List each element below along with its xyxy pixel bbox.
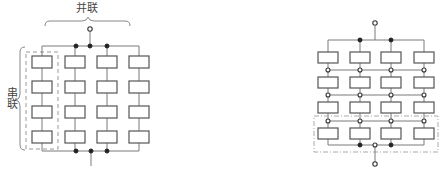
- cell: [414, 102, 434, 113]
- node: [422, 119, 426, 123]
- node: [326, 119, 330, 123]
- cell: [350, 52, 370, 63]
- cell: [350, 77, 370, 88]
- node: [358, 119, 362, 123]
- junction-node: [89, 149, 93, 153]
- junction-node: [105, 44, 109, 48]
- node: [389, 93, 393, 97]
- top-terminal: [88, 27, 92, 31]
- parallel-series-diagram: 并联 串联: [5, 1, 150, 166]
- cell: [129, 81, 149, 93]
- cell: [414, 128, 434, 139]
- series-parallel-diagram: [314, 21, 438, 166]
- node: [358, 93, 362, 97]
- cell: [381, 52, 401, 63]
- cell: [32, 131, 52, 143]
- cell: [65, 131, 85, 143]
- cell: [129, 106, 149, 118]
- node: [389, 68, 393, 72]
- junction-node: [358, 38, 362, 42]
- cell: [97, 81, 117, 93]
- cell: [318, 102, 338, 113]
- parallel-label: 并联: [76, 1, 98, 15]
- cell: [381, 77, 401, 88]
- node: [326, 93, 330, 97]
- cell: [97, 106, 117, 118]
- junction-node: [105, 149, 109, 153]
- node: [389, 119, 393, 123]
- node: [373, 143, 377, 147]
- cell: [65, 81, 85, 93]
- junction-node: [74, 149, 78, 153]
- node: [358, 68, 362, 72]
- cell: [129, 131, 149, 143]
- junction-node: [88, 44, 92, 48]
- series-label: 串联: [5, 87, 19, 110]
- cell: [318, 52, 338, 63]
- junction-node: [389, 38, 393, 42]
- parallel-brace: [45, 17, 130, 26]
- cell: [318, 128, 338, 139]
- cell: [381, 128, 401, 139]
- cell: [129, 56, 149, 68]
- junction-node: [389, 143, 393, 147]
- cell: [350, 128, 370, 139]
- cell: [318, 77, 338, 88]
- node: [422, 93, 426, 97]
- cell: [32, 56, 52, 68]
- cell: [32, 106, 52, 118]
- cell: [65, 106, 85, 118]
- node: [326, 68, 330, 72]
- cell: [65, 56, 85, 68]
- cell: [32, 81, 52, 93]
- top-terminal: [373, 21, 377, 25]
- cell: [97, 131, 117, 143]
- cell: [414, 77, 434, 88]
- cell: [381, 102, 401, 113]
- bottom-terminal: [373, 162, 377, 166]
- cell: [414, 52, 434, 63]
- cell: [350, 102, 370, 113]
- node: [422, 68, 426, 72]
- cell: [97, 56, 117, 68]
- junction-node: [74, 44, 78, 48]
- junction-node: [358, 143, 362, 147]
